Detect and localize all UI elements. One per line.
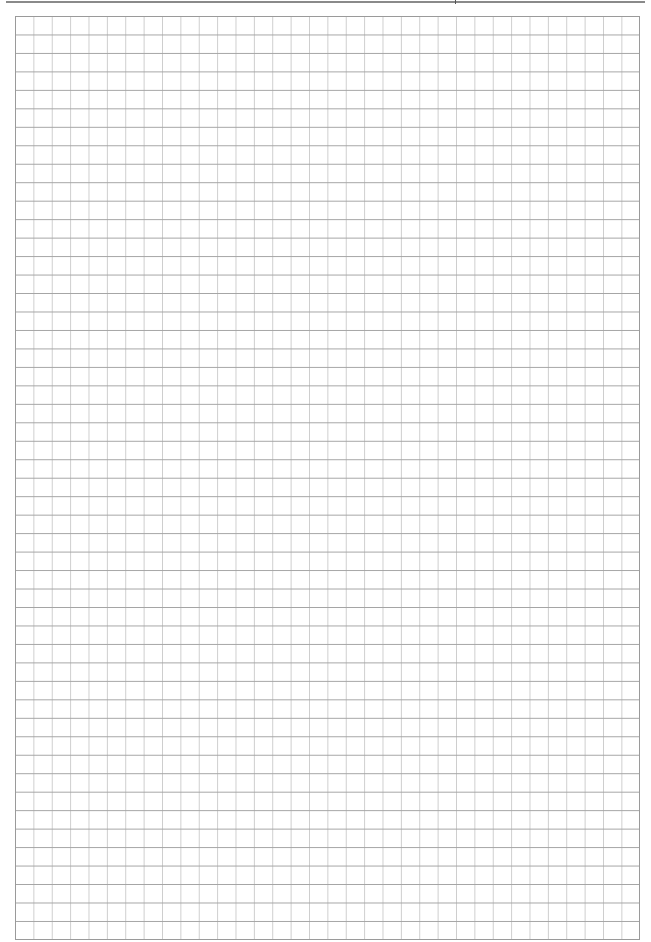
square-grid bbox=[15, 16, 640, 940]
header-rule bbox=[6, 1, 645, 3]
header-tick-mark bbox=[455, 0, 456, 4]
graph-paper-page bbox=[0, 0, 651, 942]
